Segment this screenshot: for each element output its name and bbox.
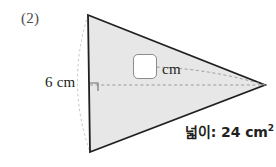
item-number-label: (2) (21, 11, 39, 26)
area-label-exponent: 2 (268, 123, 274, 133)
area-label: 넓이: 24 cm2 (185, 124, 274, 139)
triangle-figure (0, 0, 276, 167)
problem-figure-page: (2) 6 cm cm 넓이: 24 cm2 (0, 0, 276, 167)
unit-label: cm (162, 62, 181, 77)
area-label-text: 넓이: 24 cm (185, 124, 268, 140)
answer-input-box[interactable] (133, 54, 157, 79)
height-measure-label: 6 cm (45, 75, 75, 90)
